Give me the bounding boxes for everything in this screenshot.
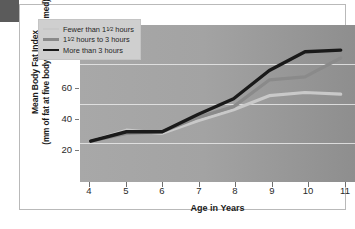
- x-tick-label-11: 11: [336, 185, 354, 196]
- y-tick-mark-20: [75, 150, 79, 151]
- legend-item-more-than-3-hours: More than 3 hours: [43, 46, 134, 55]
- legend-label-series-2: More than 3 hours: [63, 46, 123, 55]
- x-tick-label-10: 10: [299, 185, 317, 196]
- legend: Fewer than 11⁄2 hours 11⁄2 hours to 3 ho…: [38, 19, 141, 60]
- x-tick-label-4: 4: [80, 185, 98, 196]
- x-tick-label-7: 7: [190, 185, 208, 196]
- y-tick-label-20: 20: [46, 144, 72, 155]
- x-axis-title: Age in Years: [80, 203, 355, 213]
- legend-swatch-series-1: [43, 38, 59, 41]
- x-tick-label-9: 9: [263, 185, 281, 196]
- y-tick-mark-60: [75, 88, 79, 89]
- y-tick-label-60: 60: [46, 82, 72, 93]
- legend-swatch-series-2: [43, 49, 59, 52]
- legend-label-series-1: 11⁄2 hours to 3 hours: [63, 35, 130, 44]
- x-tick-label-8: 8: [226, 185, 244, 196]
- page-corner-tab: [0, 0, 19, 22]
- x-tick-label-5: 5: [117, 185, 135, 196]
- legend-item-1-5-to-3-hours: 11⁄2 hours to 3 hours: [43, 35, 134, 44]
- y-tick-mark-40: [75, 119, 79, 120]
- legend-swatch-series-0: [43, 28, 59, 31]
- legend-label-series-0: Fewer than 11⁄2 hours: [63, 25, 134, 34]
- legend-item-fewer-than-1-5-hours: Fewer than 11⁄2 hours: [43, 25, 134, 34]
- x-tick-label-6: 6: [153, 185, 171, 196]
- figure-frame: Mean Body Fat Index (mm of fat at five b…: [19, 4, 346, 210]
- y-tick-label-40: 40: [46, 113, 72, 124]
